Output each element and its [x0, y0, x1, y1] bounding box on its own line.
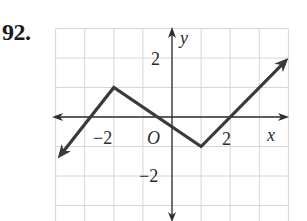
- x-axis-label: x: [266, 125, 275, 145]
- axis-labels: y x O 2 −2 −2 2: [93, 28, 275, 186]
- chart: y x O 2 −2 −2 2: [0, 0, 307, 221]
- x-tick-label-neg2: −2: [93, 128, 112, 148]
- y-tick-label-2: 2: [151, 49, 160, 69]
- x-tick-label-2: 2: [222, 129, 231, 149]
- y-tick-label-neg2: −2: [139, 166, 158, 186]
- y-axis-label: y: [178, 28, 188, 48]
- origin-label: O: [147, 128, 160, 148]
